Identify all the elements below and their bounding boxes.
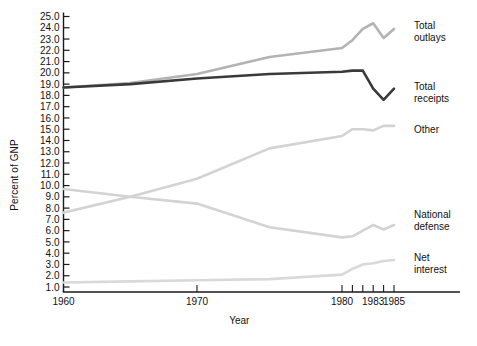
series-line	[64, 126, 395, 213]
y-tick-label: 2.0	[46, 270, 60, 281]
y-tick-label: 10.0	[40, 180, 60, 191]
series-labels: TotaloutlaysTotalreceiptsOtherNationalde…	[414, 20, 451, 275]
y-tick-label: 18.0	[40, 90, 60, 101]
y-axis-ticks: 1.02.03.04.05.06.07.08.09.010.011.012.01…	[40, 11, 69, 293]
y-tick-label: 4.0	[46, 248, 60, 259]
y-tick-label: 14.0	[40, 135, 60, 146]
y-tick-label: 9.0	[46, 191, 60, 202]
x-axis-title: Year	[229, 315, 250, 326]
x-tick-label: 1985	[383, 296, 406, 307]
y-tick-label: 7.0	[46, 214, 60, 225]
series-line	[64, 189, 395, 237]
y-tick-label: 24.0	[40, 22, 60, 33]
y-tick-label: 22.0	[40, 45, 60, 56]
series-line	[64, 260, 395, 283]
data-series	[64, 23, 395, 282]
y-tick-label: 25.0	[40, 11, 60, 22]
series-label-text: Other	[414, 124, 440, 135]
y-tick-label: 1.0	[46, 282, 60, 293]
y-tick-label: 16.0	[40, 113, 60, 124]
y-tick-label: 12.0	[40, 158, 60, 169]
x-tick-label: 1983	[362, 296, 385, 307]
y-tick-label: 13.0	[40, 146, 60, 157]
y-tick-label: 23.0	[40, 34, 60, 45]
series-line	[64, 71, 395, 100]
y-tick-label: 17.0	[40, 101, 60, 112]
x-tick-label: 1970	[186, 296, 209, 307]
x-axis-ticks: 19601970198019831985	[52, 285, 405, 307]
y-tick-label: 5.0	[46, 237, 60, 248]
x-tick-label: 1960	[52, 296, 75, 307]
y-tick-label: 6.0	[46, 225, 60, 236]
x-tick-label: 1980	[331, 296, 354, 307]
y-tick-label: 11.0	[41, 169, 60, 180]
series-label-text: Nationaldefense	[414, 209, 451, 232]
chart-container: Percent of GNP 1.02.03.04.05.06.07.08.09…	[0, 0, 477, 346]
series-label-text: Totalreceipts	[414, 81, 449, 104]
series-line	[64, 23, 395, 87]
y-tick-label: 19.0	[40, 79, 60, 90]
series-label-text: Netinterest	[414, 252, 447, 275]
y-tick-label: 3.0	[46, 259, 60, 270]
y-tick-label: 15.0	[40, 124, 60, 135]
y-tick-label: 8.0	[46, 203, 60, 214]
line-chart-svg: 1.02.03.04.05.06.07.08.09.010.011.012.01…	[0, 0, 477, 346]
series-label-text: Totaloutlays	[414, 20, 446, 43]
y-tick-label: 20.0	[40, 67, 60, 78]
y-tick-label: 21.0	[40, 56, 60, 67]
